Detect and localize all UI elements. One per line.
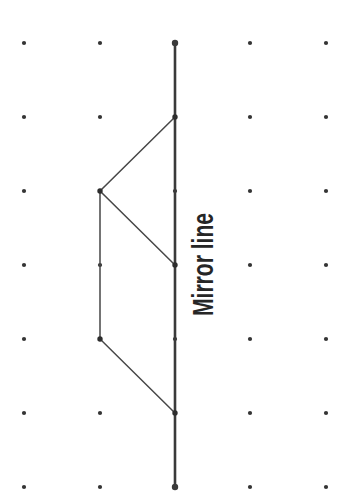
shape-vertex-dot <box>172 262 177 267</box>
grid-dot <box>324 41 328 45</box>
shape-vertex-dot <box>172 114 177 119</box>
grid-dot <box>248 189 252 193</box>
grid-dot <box>98 115 102 119</box>
grid-dot <box>248 337 252 341</box>
mirror-line-endpoint-dot <box>172 484 178 490</box>
grid-dot <box>324 337 328 341</box>
worksheet-figure: Mirror line <box>0 0 341 503</box>
grid-dot <box>98 411 102 415</box>
grid-dot <box>324 115 328 119</box>
shape-segment <box>100 191 175 413</box>
grid-dot <box>248 115 252 119</box>
shape-vertex-dot <box>97 336 102 341</box>
grid-dot <box>98 485 102 489</box>
grid-dot <box>22 189 26 193</box>
shape-vertex-dot <box>172 410 177 415</box>
shape-segment <box>100 117 175 265</box>
shape-vertex-dots <box>97 114 177 415</box>
grid-dot <box>324 263 328 267</box>
grid-dot <box>324 189 328 193</box>
grid-dot <box>22 115 26 119</box>
grid-dot <box>248 263 252 267</box>
grid-dot <box>324 411 328 415</box>
grid-dot <box>324 485 328 489</box>
mirror-line-label: Mirror line <box>187 213 219 316</box>
grid-dot <box>248 41 252 45</box>
half-shape <box>100 117 175 413</box>
grid-dot <box>22 485 26 489</box>
mirror-line-endpoint-dot <box>172 40 178 46</box>
shape-vertex-dot <box>97 188 102 193</box>
grid-dot <box>22 337 26 341</box>
grid-dot <box>22 263 26 267</box>
mirror-line-diagram: Mirror line <box>0 0 341 503</box>
grid-dot <box>248 485 252 489</box>
grid-dot <box>22 411 26 415</box>
grid-dot <box>22 41 26 45</box>
grid-dot <box>248 411 252 415</box>
grid-dot <box>98 41 102 45</box>
